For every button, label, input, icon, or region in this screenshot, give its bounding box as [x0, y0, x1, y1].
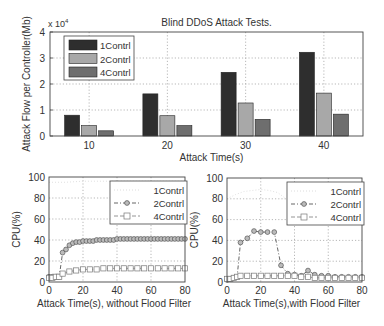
y-axis-label: Attack Flow per Controller(Mb) — [21, 16, 32, 152]
legend-marker-square — [301, 214, 307, 220]
legend-marker-circle — [302, 202, 307, 207]
bar-1Contrl — [65, 115, 80, 136]
x-tick-label: 20 — [162, 140, 174, 151]
marker-square — [87, 267, 92, 272]
marker-circle — [306, 268, 311, 273]
y-tick-label: 4 — [39, 27, 45, 38]
x-tick-label: 80 — [179, 285, 191, 296]
marker-square — [346, 275, 351, 280]
bar-1Contrl — [143, 94, 158, 136]
marker-circle — [238, 240, 243, 245]
marker-square — [339, 275, 344, 280]
x-tick-label: 0 — [224, 285, 230, 296]
bar-2Contrl — [160, 116, 175, 136]
bar-2Contrl — [82, 126, 97, 136]
bar-chart-attack-flow: 0123410203040Blind DDoS Attack Tests.x 1… — [21, 16, 363, 163]
marker-square — [245, 273, 250, 278]
marker-square — [176, 266, 181, 271]
legend-swatch — [69, 67, 97, 77]
marker-square — [128, 266, 133, 271]
legend-marker-circle — [125, 201, 130, 206]
legend-label: 4Contrl — [330, 212, 361, 223]
figure: 0123410203040Blind DDoS Attack Tests.x 1… — [0, 0, 384, 326]
marker-square — [238, 273, 243, 278]
marker-square — [258, 273, 263, 278]
marker-square — [101, 266, 106, 271]
marker-square — [148, 266, 153, 271]
legend: 1Contrl2Contrl4Contrl — [287, 182, 364, 225]
x-tick-label: 40 — [289, 285, 301, 296]
marker-square — [94, 267, 99, 272]
y-tick-label: 3 — [39, 53, 45, 64]
marker-square — [251, 273, 256, 278]
y-tick-label: 20 — [212, 256, 224, 267]
marker-square — [312, 275, 317, 280]
y-tick-label: 100 — [28, 172, 45, 183]
legend: 1Contrl2Contrl4Contrl — [64, 36, 134, 80]
y-axis-label: CPU(%) — [11, 211, 22, 248]
legend-label: 1Contrl — [330, 186, 361, 197]
x-tick-label: 30 — [240, 140, 252, 151]
marker-square — [135, 266, 140, 271]
bar-4Contrl — [177, 126, 192, 136]
marker-square — [155, 266, 160, 271]
y-tick-label: 80 — [34, 193, 46, 204]
bar-4Contrl — [333, 114, 348, 136]
x-tick-label: 40 — [318, 140, 330, 151]
x-axis-label: Attack Time(s),with Flood Filter — [223, 298, 361, 309]
legend-label: 1Contrl — [153, 185, 184, 196]
bar-4Contrl — [255, 119, 270, 136]
marker-square — [326, 275, 331, 280]
marker-square — [272, 273, 277, 278]
legend-marker-square — [124, 213, 130, 219]
x-tick-label: 0 — [46, 285, 52, 296]
y-tick-label: 20 — [34, 256, 46, 267]
y-tick-label: 80 — [212, 193, 224, 204]
y-tick-label: 100 — [206, 173, 223, 184]
y-tick-label: 0 — [39, 131, 45, 142]
legend-label: 2Contrl — [100, 54, 131, 65]
bar-2Contrl — [238, 103, 253, 136]
line-chart-cpu-without-filter: 020406080100020406080Attack Time(s), wit… — [11, 172, 192, 310]
y-axis-label: CPU(%) — [189, 212, 200, 249]
marker-circle — [64, 247, 69, 252]
y-tick-label: 0 — [217, 277, 223, 288]
marker-square — [332, 275, 337, 280]
marker-square — [67, 269, 72, 274]
legend-label: 4Contrl — [153, 211, 184, 222]
legend-label: 2Contrl — [153, 198, 184, 209]
marker-circle — [252, 229, 257, 234]
y-tick-label: 40 — [212, 235, 224, 246]
marker-circle — [272, 230, 277, 235]
y-tick-label: 0 — [39, 277, 45, 288]
x-tick-label: 60 — [323, 285, 335, 296]
legend: 1Contrl2Contrl4Contrl — [110, 181, 187, 224]
y-tick-label: 1 — [39, 105, 45, 116]
legend-swatch — [69, 54, 97, 64]
marker-square — [292, 273, 297, 278]
y-multiplier-exponent: 4 — [65, 18, 69, 24]
y-tick-label: 40 — [34, 235, 46, 246]
legend-swatch — [69, 40, 97, 50]
x-tick-label: 10 — [84, 140, 96, 151]
line-chart-cpu-with-filter: 020406080100020406080Attack Time(s),with… — [189, 173, 368, 310]
marker-square — [285, 273, 290, 278]
legend-label: 2Contrl — [330, 199, 361, 210]
legend-label: 4Contrl — [100, 67, 131, 78]
y-tick-label: 60 — [34, 214, 46, 225]
x-tick-label: 20 — [77, 285, 89, 296]
marker-square — [278, 273, 283, 278]
bar-2Contrl — [316, 93, 331, 136]
x-tick-label: 60 — [145, 285, 157, 296]
bar-1Contrl — [221, 72, 236, 136]
marker-square — [305, 274, 310, 279]
marker-square — [74, 268, 79, 273]
marker-circle — [245, 236, 250, 241]
bar-1Contrl — [299, 52, 314, 136]
marker-square — [265, 273, 270, 278]
marker-square — [142, 266, 147, 271]
marker-square — [121, 266, 126, 271]
y-tick-label: 60 — [212, 214, 224, 225]
chart-title: Blind DDoS Attack Tests. — [161, 17, 271, 28]
bar-4Contrl — [99, 131, 114, 136]
